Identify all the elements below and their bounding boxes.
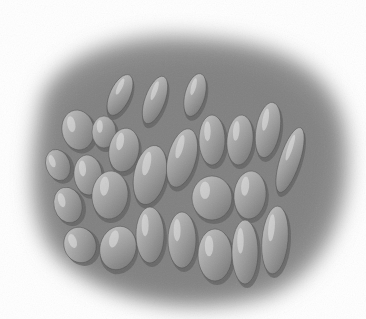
cell-illustration <box>0 0 366 319</box>
tissue-drawing <box>0 0 366 319</box>
